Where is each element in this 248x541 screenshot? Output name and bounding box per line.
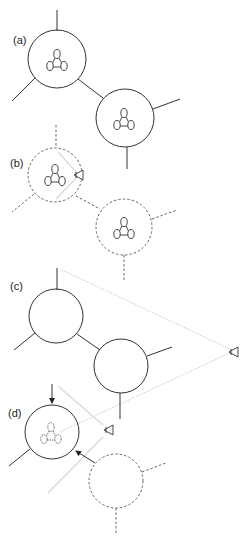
triangle-molecule-icon xyxy=(114,218,134,239)
node-a1 xyxy=(28,30,86,88)
triangle-molecule-icon xyxy=(47,50,67,71)
node-d2 xyxy=(89,454,143,508)
edge xyxy=(12,194,34,212)
node-c1 xyxy=(29,289,83,343)
panel-a: (a) xyxy=(12,10,180,169)
node-c2 xyxy=(94,339,148,393)
edge xyxy=(78,79,103,98)
edge xyxy=(147,347,172,356)
edge xyxy=(14,333,35,350)
panel-label-d: (d) xyxy=(8,407,21,419)
edge xyxy=(9,449,30,466)
panel-label-c: (c) xyxy=(10,280,23,292)
diagram-canvas: (a) (b) (c) xyxy=(0,0,248,541)
panel-b: (b) xyxy=(10,125,177,280)
edge xyxy=(153,99,180,109)
view-cone-edge xyxy=(60,352,232,432)
view-line xyxy=(58,386,103,425)
edge xyxy=(142,463,166,472)
edge xyxy=(77,334,100,350)
edge xyxy=(76,196,100,209)
node-b2 xyxy=(96,199,152,255)
triangle-molecule-icon xyxy=(114,109,134,130)
view-cone-edge xyxy=(62,270,232,350)
edge xyxy=(12,78,35,101)
edge xyxy=(152,210,177,219)
triangle-molecule-icon xyxy=(41,423,61,444)
panel-d: (d) xyxy=(8,384,166,535)
eye-icon xyxy=(104,425,113,435)
node-d1 xyxy=(25,405,79,459)
triangle-molecule-icon xyxy=(45,165,65,186)
view-line xyxy=(58,152,79,175)
panel-label-b: (b) xyxy=(10,157,23,169)
node-a2 xyxy=(96,89,154,147)
panel-c: (c) xyxy=(10,268,238,432)
eye-icon xyxy=(229,347,238,357)
panel-label-a: (a) xyxy=(13,34,26,46)
